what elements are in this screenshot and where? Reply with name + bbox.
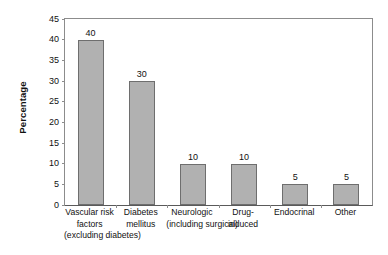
y-axis-tick: 40 bbox=[49, 34, 65, 46]
y-axis-tick-mark bbox=[62, 60, 65, 61]
x-axis-category-label-line: Neurologic bbox=[166, 207, 217, 219]
y-axis-tick-label: 35 bbox=[49, 56, 62, 65]
y-axis-tick-label: 40 bbox=[49, 35, 62, 44]
y-axis-tick: 35 bbox=[49, 54, 65, 66]
y-axis-tick-mark bbox=[62, 184, 65, 185]
y-axis-tick: 30 bbox=[49, 75, 65, 87]
x-axis-category-label: Endocrinal bbox=[269, 207, 320, 219]
x-axis-category-label-line: Drug- bbox=[218, 207, 269, 219]
x-axis-category-label: Other bbox=[320, 207, 371, 219]
y-axis-tick-mark bbox=[62, 205, 65, 206]
y-axis-tick-mark bbox=[62, 81, 65, 82]
y-axis-tick: 15 bbox=[49, 137, 65, 149]
y-axis-tick-label: 25 bbox=[49, 97, 62, 106]
y-axis-tick-mark bbox=[62, 122, 65, 123]
y-axis-tick-mark bbox=[62, 19, 65, 20]
x-axis-category-label: Neurologic(including surgical) bbox=[166, 207, 217, 230]
y-axis-tick: 25 bbox=[49, 96, 65, 108]
y-axis-tick-label: 15 bbox=[49, 139, 62, 148]
y-axis-tick: 5 bbox=[54, 178, 65, 190]
bar: 10 bbox=[180, 164, 206, 205]
y-axis-tick-label: 20 bbox=[49, 118, 62, 127]
x-axis-category-label-line: Other bbox=[320, 207, 371, 219]
bar: 40 bbox=[78, 40, 104, 205]
bar-value-label: 30 bbox=[137, 70, 147, 79]
bar-value-label: 40 bbox=[86, 29, 96, 38]
x-axis-category-label-line: (excluding diabetes) bbox=[64, 230, 115, 242]
bar-chart: Percentage 4540353025201510504030101055 … bbox=[0, 0, 388, 255]
x-axis-category-label-line: Endocrinal bbox=[269, 207, 320, 219]
y-axis-tick-mark bbox=[62, 101, 65, 102]
y-axis-tick-mark bbox=[62, 39, 65, 40]
bar: 5 bbox=[333, 184, 359, 205]
y-axis-tick-mark bbox=[62, 163, 65, 164]
x-axis-category-label-line: (including surgical) bbox=[166, 219, 217, 231]
y-axis-title: Percentage bbox=[10, 0, 34, 235]
x-axis-category-label-line: induced bbox=[218, 219, 269, 231]
y-axis-tick: 10 bbox=[49, 158, 65, 170]
bar-value-label: 5 bbox=[293, 173, 298, 182]
x-axis-category-label-line: Diabetes bbox=[115, 207, 166, 219]
bar: 5 bbox=[282, 184, 308, 205]
bar-value-label: 5 bbox=[344, 173, 349, 182]
x-axis-category-label-line: Vascular risk bbox=[64, 207, 115, 219]
x-axis-category-label: Vascular riskfactors(excluding diabetes) bbox=[64, 207, 115, 242]
x-axis-category-label-line: mellitus bbox=[115, 219, 166, 231]
plot-area: 4540353025201510504030101055 bbox=[64, 18, 373, 206]
x-axis-category-label: Drug-induced bbox=[218, 207, 269, 230]
y-axis-tick-label: 45 bbox=[49, 15, 62, 24]
y-axis-tick-label: 0 bbox=[54, 201, 62, 210]
bar: 30 bbox=[129, 81, 155, 205]
bar-value-label: 10 bbox=[188, 153, 198, 162]
y-axis-tick-label: 10 bbox=[49, 159, 62, 168]
y-axis-tick: 45 bbox=[49, 13, 65, 25]
y-axis-tick-mark bbox=[62, 143, 65, 144]
x-axis-category-label: Diabetesmellitus bbox=[115, 207, 166, 230]
y-axis-tick-label: 5 bbox=[54, 180, 62, 189]
bar-value-label: 10 bbox=[239, 153, 249, 162]
y-axis-tick: 20 bbox=[49, 116, 65, 128]
bar: 10 bbox=[231, 164, 257, 205]
x-axis-category-label-line: factors bbox=[64, 219, 115, 231]
y-axis-tick-label: 30 bbox=[49, 77, 62, 86]
